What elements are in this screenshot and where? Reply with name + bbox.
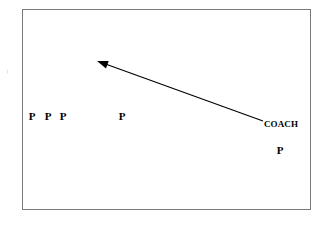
play-diagram: g PPPPPCOACH: [0, 0, 328, 225]
player-marker: P: [29, 111, 36, 122]
coach-label: COACH: [264, 120, 298, 129]
player-marker: P: [277, 145, 284, 156]
player-marker: P: [60, 111, 67, 122]
player-marker: P: [45, 111, 52, 122]
player-marker: P: [119, 111, 126, 122]
margin-glyph-fragment: g: [1, 60, 8, 74]
